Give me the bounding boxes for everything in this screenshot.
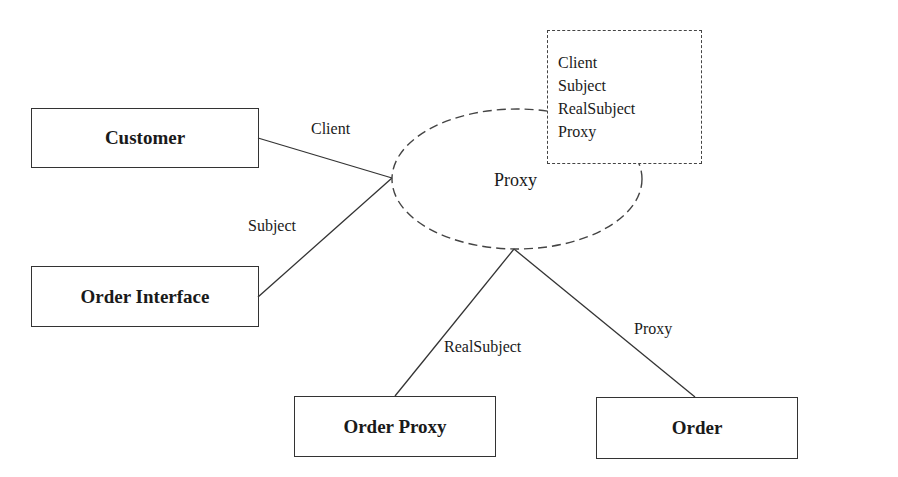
role-label-realsubject: RealSubject xyxy=(444,338,521,356)
class-order[interactable]: Order xyxy=(596,397,798,459)
class-order-proxy-label: Order Proxy xyxy=(343,416,446,438)
edge-order-proxy-proxy xyxy=(395,249,514,396)
role-label-proxy: Proxy xyxy=(634,320,672,338)
class-order-proxy[interactable]: Order Proxy xyxy=(294,396,496,457)
collaboration-name: Proxy xyxy=(494,170,537,191)
class-order-interface-label: Order Interface xyxy=(81,286,210,308)
role-label-client: Client xyxy=(311,120,350,138)
collaboration-participants-box: Client Subject RealSubject Proxy xyxy=(547,30,702,164)
participant-realsubject: RealSubject xyxy=(558,97,701,120)
edge-customer-proxy xyxy=(258,138,392,178)
participant-client: Client xyxy=(558,51,701,74)
class-customer-label: Customer xyxy=(105,127,185,149)
edge-order-interface-proxy xyxy=(258,178,392,297)
role-label-subject: Subject xyxy=(248,217,296,235)
participant-subject: Subject xyxy=(558,74,701,97)
class-order-interface[interactable]: Order Interface xyxy=(31,266,259,327)
class-customer[interactable]: Customer xyxy=(31,108,259,168)
participant-proxy: Proxy xyxy=(558,120,701,143)
class-order-label: Order xyxy=(672,417,723,439)
